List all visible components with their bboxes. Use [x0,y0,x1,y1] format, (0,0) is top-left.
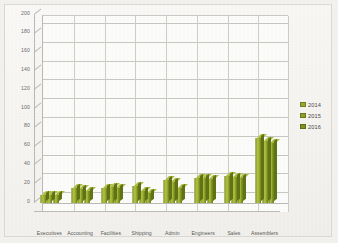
bar-side-face [114,183,117,201]
bar-side-face [59,190,62,201]
bar-group [163,15,182,203]
plot-area: 020406080100120140160180200 ExecutivesAc… [34,15,288,212]
legend-item[interactable]: 2016 [300,121,321,132]
floor-back-edge [42,203,288,204]
bar-side-face [145,186,148,201]
bar-group [255,15,274,203]
bar [163,180,169,203]
bar-group [101,15,120,203]
chart-screenshot: 020406080100120140160180200 ExecutivesAc… [0,0,338,243]
y-axis-tick-label: 100 [8,104,30,110]
bar-side-face [261,134,264,201]
bar-side-face [230,171,233,201]
bar-front-face [194,178,200,203]
bar [71,188,77,203]
bar [224,176,230,203]
y-axis-tick-label: 0 [8,198,30,204]
bar-side-face [77,184,80,201]
bar-side-face [274,138,277,201]
bar-side-face [169,176,172,201]
bar [194,178,200,203]
bar-side-face [268,137,271,201]
legend-color-swatch [300,113,306,119]
legend-item-label: 2016 [308,124,321,130]
bar-group [71,15,90,203]
y-axis-tick-label: 20 [8,179,30,185]
bar [255,138,261,203]
bar [40,195,46,203]
legend-item[interactable]: 2014 [300,99,321,110]
bar-side-face [182,184,185,201]
y-axis-tick-label: 40 [8,160,30,166]
bar-side-face [138,182,141,201]
bar-side-face [83,185,86,201]
legend-item-label: 2014 [308,102,321,108]
y-axis-tick-label: 140 [8,66,30,72]
legend-item-label: 2015 [308,113,321,119]
legend-color-swatch [300,124,306,130]
bar-side-face [213,174,216,201]
bar-side-face [237,172,240,201]
y-axis-tick-label: 60 [8,141,30,147]
bar-side-face [90,186,93,201]
bar-group [40,15,59,203]
y-axis-tick-label: 80 [8,122,30,128]
y-axis-tick-label: 160 [8,47,30,53]
bar-side-face [107,184,110,201]
legend: 201420152016 [300,99,321,132]
legend-item[interactable]: 2015 [300,110,321,121]
bar-side-face [175,178,178,201]
bar [101,188,107,203]
y-axis-line [34,15,35,203]
plot-right-edge [288,16,289,212]
bar-group [194,15,213,203]
bar-group [132,15,151,203]
legend-color-swatch [300,102,306,108]
bar-side-face [206,173,209,201]
y-axis-tick-label: 200 [8,10,30,16]
y-axis-tick-label: 120 [8,85,30,91]
bar-group [224,15,243,203]
bar-side-face [151,188,154,201]
bar-front-face [40,195,46,203]
plot-floor [34,203,288,212]
bar-front-face [71,188,77,203]
bar-side-face [200,173,203,201]
y-axis-tick-label: 180 [8,28,30,34]
bar-front-face [163,180,169,203]
x-axis-tick-label: Assemblers [245,230,284,236]
bar [132,186,138,203]
floor-front-edge [34,211,280,212]
